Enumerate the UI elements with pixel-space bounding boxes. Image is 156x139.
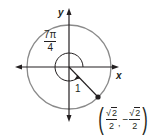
left-paren: ( bbox=[98, 104, 104, 134]
angle-label: 7π 4 bbox=[44, 30, 56, 53]
terminal-side bbox=[69, 67, 98, 97]
angle-denominator: 4 bbox=[47, 43, 53, 53]
radius-label: 1 bbox=[75, 83, 81, 94]
x-coordinate: √2 2 bbox=[106, 108, 117, 131]
fraction-bar bbox=[129, 119, 140, 120]
x-axis-label: x bbox=[116, 70, 122, 81]
y-denominator: 2 bbox=[132, 121, 137, 131]
fraction-bar bbox=[106, 119, 117, 120]
y-axis-label: y bbox=[58, 7, 64, 18]
x-axis-right-arrow-icon bbox=[112, 65, 119, 70]
point-marker bbox=[95, 94, 100, 99]
right-paren: ) bbox=[143, 104, 149, 134]
y-sign: − bbox=[122, 114, 128, 125]
y-axis-bottom-arrow-icon bbox=[67, 115, 72, 122]
separator: , bbox=[118, 118, 121, 128]
y-radicand: 2 bbox=[134, 107, 140, 118]
angle-numerator: 7π bbox=[44, 30, 56, 40]
x-denominator: 2 bbox=[109, 121, 114, 131]
y-numerator: √2 bbox=[129, 108, 140, 118]
x-radicand: 2 bbox=[111, 107, 117, 118]
y-axis-top-arrow-icon bbox=[67, 8, 72, 15]
y-coordinate: √2 2 bbox=[129, 108, 140, 131]
point-coordinates: ( √2 2 , − √2 2 ) bbox=[96, 102, 156, 136]
x-axis-left-arrow-icon bbox=[15, 65, 22, 70]
x-numerator: √2 bbox=[106, 108, 117, 118]
